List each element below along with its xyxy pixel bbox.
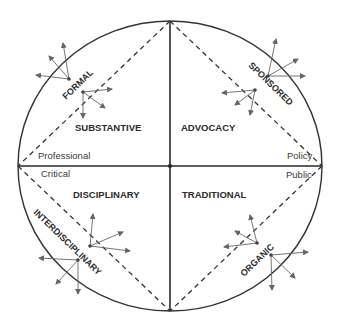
quadrant-diagram: SUBSTANTIVE ADVOCACY DISCIPLINARY TRADIT… [0, 0, 342, 331]
arrow-origin-dot [88, 244, 92, 248]
axis-label-professional: Professional [38, 150, 90, 161]
axis-label-policy: Policy [287, 150, 313, 161]
arrow-origin-dot [255, 241, 259, 245]
arrow-origin-dot [253, 88, 257, 92]
arrow-cluster-interdisciplinary [88, 214, 130, 251]
arrow [271, 255, 295, 278]
diagram-canvas: SUBSTANTIVE ADVOCACY DISCIPLINARY TRADIT… [0, 0, 342, 331]
arrow-cluster-formal [81, 89, 112, 118]
quadrant-label-bottom-left: DISCIPLINARY [73, 189, 140, 200]
arrow [39, 258, 78, 260]
arrow-origin-dot [67, 77, 71, 81]
arrow-origin-dot [81, 90, 85, 94]
arrow-cluster-interdisciplinary [39, 258, 80, 294]
arrow [90, 246, 130, 251]
quadrant-label-top-left: SUBSTANTIVE [75, 122, 141, 133]
arrow [271, 255, 272, 290]
quadrant-label-bottom-right: TRADITIONAL [182, 189, 247, 200]
arrow-cluster-formal [36, 43, 71, 81]
arrow [56, 260, 78, 284]
axis-label-public: Public [286, 169, 312, 180]
arrow [90, 232, 123, 246]
diagonal-label-sponsored: SPONSORED [247, 60, 296, 107]
center-point [168, 164, 172, 168]
arrow [90, 214, 93, 246]
arrow [36, 75, 69, 79]
arrow [268, 39, 276, 76]
arrow-cluster-sponsored [222, 88, 257, 115]
arrow [222, 90, 255, 93]
arrow [268, 59, 298, 76]
diagonal-label-organic: ORGANIC [238, 241, 276, 278]
arrow [83, 92, 105, 108]
quadrant-label-top-right: ADVOCACY [181, 122, 236, 133]
arrow [235, 231, 257, 243]
axis-label-critical: Critical [41, 168, 70, 179]
